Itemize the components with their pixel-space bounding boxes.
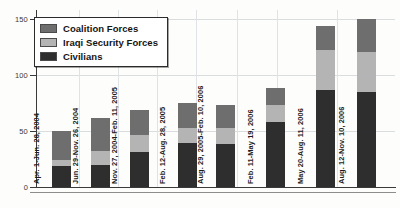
bar-5-segment-iraqi-security-forces [216, 128, 235, 145]
bar-5-segment-coalition-forces [216, 105, 235, 127]
legend-label-coalition-forces: Coalition Forces [63, 23, 138, 34]
bar-8 [357, 19, 376, 187]
bar-3 [130, 110, 149, 187]
bar-1-segment-coalition-forces [52, 131, 71, 160]
bar-2 [91, 118, 110, 187]
bar-6 [266, 88, 285, 187]
y-tick-label-0: 0 [0, 183, 28, 192]
y-tick-label-100: 100 [0, 71, 28, 80]
bar-6-segment-iraqi-security-forces [266, 105, 285, 122]
stacked-bar-chart: 150 100 50 0 Apr. 1-Jun. 28, 2004Jun. 29… [0, 0, 400, 208]
category-label-nov-27-2004-feb-11-2005: Nov. 27, 2004-Feb. 11, 2005 [110, 87, 119, 184]
legend-item-civilians: Civilians [40, 49, 158, 63]
bar-3-segment-coalition-forces [130, 110, 149, 136]
chart-legend: Coalition Forces Iraqi Security Forces C… [34, 17, 168, 67]
bar-2-segment-coalition-forces [91, 118, 110, 152]
y-tick-label-150: 150 [0, 15, 28, 24]
bar-5-segment-civilians [216, 144, 235, 187]
bar-7 [316, 26, 335, 187]
bar-7-segment-iraqi-security-forces [316, 50, 335, 89]
bar-6-segment-coalition-forces [266, 88, 285, 105]
y-tick-mark-100 [30, 75, 36, 76]
x-axis-baseline-secondary [30, 192, 396, 193]
bar-7-segment-civilians [316, 90, 335, 187]
category-label-aug-29-2005-feb-10-2006: Aug. 29, 2005-Feb. 10, 2006 [196, 86, 205, 184]
x-axis-line [30, 187, 396, 188]
gridline-100 [37, 75, 395, 76]
bar-2-segment-civilians [91, 165, 110, 187]
legend-item-iraqi-security-forces: Iraqi Security Forces [40, 35, 158, 49]
y-tick-mark-0 [30, 187, 36, 188]
category-label-feb-11-may-19-2006: Feb. 11-May 19, 2006 [246, 109, 255, 184]
legend-swatch-iraqi-security-forces [40, 38, 57, 47]
legend-item-coalition-forces: Coalition Forces [40, 21, 158, 35]
category-label-may-20-aug-11-2006: May 20-Aug. 11, 2006 [296, 108, 305, 184]
legend-swatch-coalition-forces [40, 24, 57, 33]
category-separator [237, 10, 238, 187]
bar-8-segment-iraqi-security-forces [357, 52, 376, 92]
bar-1 [52, 131, 71, 187]
legend-label-civilians: Civilians [63, 51, 103, 62]
bar-6-segment-civilians [266, 122, 285, 187]
bar-1-segment-civilians [52, 166, 71, 187]
bar-8-segment-coalition-forces [357, 19, 376, 51]
category-label-aug-12-nov-10-2006: Aug. 12-Nov. 10, 2006 [337, 106, 346, 184]
bar-4-segment-civilians [178, 143, 197, 187]
bar-3-segment-iraqi-security-forces [130, 135, 149, 152]
category-label-jun-29-nov-26-2004: Jun. 29-Nov. 26, 2004 [71, 108, 80, 184]
bar-3-segment-civilians [130, 152, 149, 187]
category-label-feb-12-aug-28-2005: Feb. 12-Aug. 28, 2005 [158, 107, 167, 184]
bar-8-segment-civilians [357, 92, 376, 187]
legend-swatch-civilians [40, 52, 57, 61]
category-label-apr-1-jun-28-2004: Apr. 1-Jun. 28, 2004 [32, 113, 41, 184]
bar-2-segment-iraqi-security-forces [91, 151, 110, 164]
y-tick-label-50: 50 [0, 127, 28, 136]
bar-4-segment-iraqi-security-forces [178, 128, 197, 144]
legend-label-iraqi-security-forces: Iraqi Security Forces [63, 37, 158, 48]
bar-4-segment-coalition-forces [178, 103, 197, 128]
bar-5 [216, 105, 235, 187]
bar-4 [178, 103, 197, 187]
bar-7-segment-coalition-forces [316, 26, 335, 51]
